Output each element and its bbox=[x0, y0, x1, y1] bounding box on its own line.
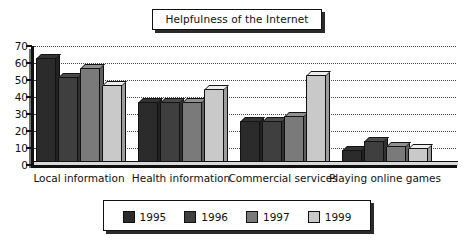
y-axis-tick-40: 40 bbox=[2, 92, 28, 102]
category-label-3: Playing online games bbox=[328, 172, 442, 185]
legend-item-1995[interactable]: 1995 bbox=[123, 206, 167, 225]
legend-label-1996: 1996 bbox=[201, 211, 228, 223]
legend-container: 1995199619971999 bbox=[0, 200, 474, 231]
bar[interactable] bbox=[204, 89, 224, 166]
legend-swatch-1995 bbox=[123, 211, 135, 223]
y-axis-tick-labels: 010203040506070 bbox=[0, 44, 28, 174]
legend-label-1997: 1997 bbox=[263, 211, 290, 223]
y-axis-tick-50: 50 bbox=[2, 75, 28, 85]
plot-area: 010203040506070 bbox=[0, 44, 474, 174]
bar-face bbox=[240, 121, 260, 165]
bar[interactable] bbox=[80, 68, 100, 165]
bar[interactable] bbox=[262, 121, 282, 165]
x-axis-category-labels: Local informationHealth informationComme… bbox=[0, 172, 474, 188]
y-tick-mark bbox=[26, 62, 32, 64]
y-axis-tick-60: 60 bbox=[2, 58, 28, 68]
bar[interactable] bbox=[58, 77, 78, 165]
y-tick-mark bbox=[26, 113, 32, 115]
legend-swatch-1997 bbox=[246, 211, 258, 223]
chart-title-container: Helpfulness of the Internet bbox=[0, 8, 474, 30]
y-axis-tick-70: 70 bbox=[2, 41, 28, 51]
chart-title: Helpfulness of the Internet bbox=[152, 9, 321, 30]
y-axis-tick-30: 30 bbox=[2, 109, 28, 119]
bar[interactable] bbox=[138, 102, 158, 165]
bar[interactable] bbox=[240, 121, 260, 165]
bar-face bbox=[36, 58, 56, 165]
category-label-0: Local information bbox=[22, 172, 136, 185]
y-tick-mark bbox=[26, 164, 32, 166]
legend: 1995199619971999 bbox=[103, 200, 372, 231]
bar-face bbox=[262, 121, 282, 165]
bar-face bbox=[204, 89, 224, 166]
bar-face bbox=[182, 102, 202, 165]
bar[interactable] bbox=[284, 116, 304, 165]
legend-swatch-1996 bbox=[184, 211, 196, 223]
y-tick-mark bbox=[26, 130, 32, 132]
gridline-70 bbox=[34, 46, 456, 47]
bar-face bbox=[306, 75, 326, 165]
y-axis-line-side bbox=[29, 49, 31, 168]
bar-face bbox=[80, 68, 100, 165]
x-axis-line bbox=[31, 165, 457, 168]
y-axis-tick-0: 0 bbox=[2, 160, 28, 170]
y-tick-mark bbox=[26, 79, 32, 81]
bar-face bbox=[138, 102, 158, 165]
bar[interactable] bbox=[306, 75, 326, 165]
y-tick-mark bbox=[26, 45, 32, 47]
category-label-2: Commercial services bbox=[226, 172, 340, 185]
bar-face bbox=[284, 116, 304, 165]
bar-face bbox=[160, 102, 180, 165]
legend-label-1999: 1999 bbox=[325, 211, 352, 223]
y-axis-tick-10: 10 bbox=[2, 143, 28, 153]
y-axis-tick-20: 20 bbox=[2, 126, 28, 136]
legend-swatch-1999 bbox=[308, 211, 320, 223]
bar[interactable] bbox=[102, 85, 122, 165]
legend-item-1999[interactable]: 1999 bbox=[308, 206, 352, 225]
legend-label-1995: 1995 bbox=[140, 211, 167, 223]
category-label-1: Health information bbox=[124, 172, 238, 185]
y-tick-mark bbox=[26, 147, 32, 149]
bar[interactable] bbox=[182, 102, 202, 165]
bar-face bbox=[102, 85, 122, 165]
bar[interactable] bbox=[36, 58, 56, 165]
legend-item-1996[interactable]: 1996 bbox=[184, 206, 228, 225]
y-tick-mark bbox=[26, 96, 32, 98]
bar-face bbox=[58, 77, 78, 165]
bar[interactable] bbox=[160, 102, 180, 165]
legend-item-1997[interactable]: 1997 bbox=[246, 206, 290, 225]
